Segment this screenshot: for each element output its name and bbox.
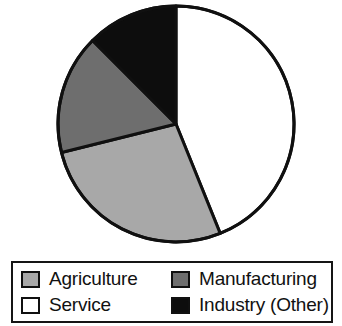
legend-swatch-manufacturing (171, 271, 190, 288)
pie-plot-area (0, 0, 342, 252)
legend-label-agriculture: Agriculture (49, 269, 138, 289)
chart-legend: Agriculture Manufacturing Service Indust… (11, 261, 333, 323)
legend-item-agriculture[interactable]: Agriculture (13, 266, 163, 292)
legend-label-service: Service (49, 295, 111, 315)
legend-label-manufacturing: Manufacturing (199, 269, 317, 289)
pie-svg (0, 0, 342, 252)
legend-item-industry-other[interactable]: Industry (Other) (163, 292, 331, 318)
legend-grid: Agriculture Manufacturing Service Indust… (13, 266, 331, 318)
pie-chart-figure: Agriculture Manufacturing Service Indust… (0, 0, 342, 326)
legend-item-manufacturing[interactable]: Manufacturing (163, 266, 331, 292)
legend-item-service[interactable]: Service (13, 292, 163, 318)
legend-swatch-industry-other (171, 297, 190, 314)
legend-swatch-agriculture (21, 271, 40, 288)
legend-label-industry-other: Industry (Other) (199, 295, 329, 315)
legend-swatch-service (21, 297, 40, 314)
